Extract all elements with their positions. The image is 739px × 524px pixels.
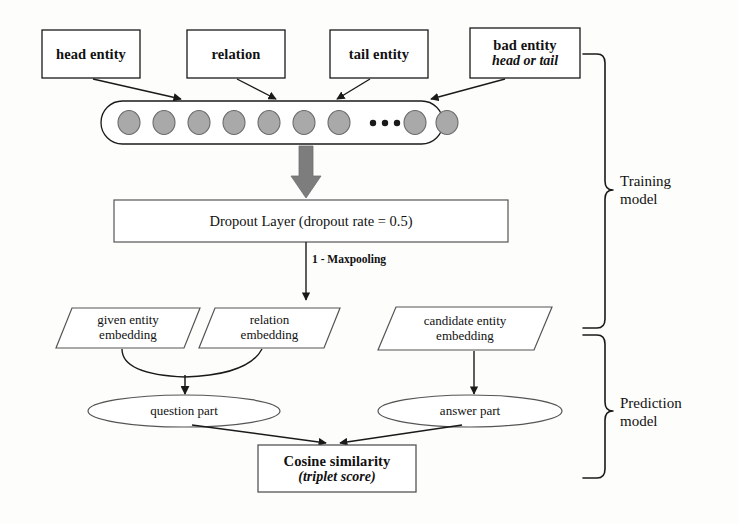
brace-training-model	[583, 54, 613, 328]
ellipse-answer-part[interactable]	[378, 395, 562, 427]
box-cosine-similarity[interactable]	[258, 445, 416, 492]
ellipse-question-part[interactable]	[88, 395, 280, 427]
diagram-vector-layer	[0, 0, 739, 524]
box-dropout-layer[interactable]	[114, 200, 508, 242]
gray-down-arrow	[291, 146, 321, 198]
shape-candidate-entity-embedding[interactable]	[378, 307, 552, 350]
arrow-bad-entity-to-vector	[431, 79, 505, 99]
box-tail-entity[interactable]	[330, 30, 428, 78]
box-head-entity[interactable]	[42, 30, 140, 78]
box-bad-entity[interactable]	[470, 28, 580, 78]
arrow-head-entity-to-vector	[93, 79, 181, 99]
box-relation[interactable]	[187, 30, 285, 78]
diagram-canvas: head entity relation tail entity bad ent…	[0, 0, 739, 524]
embedding-vector-ellipsis	[370, 120, 400, 126]
curve-embeddings-join	[122, 349, 262, 377]
shape-relation-embedding[interactable]	[199, 308, 340, 348]
arrow-tail-entity-to-vector	[337, 79, 370, 99]
arrow-answer-to-cosine	[340, 425, 462, 443]
arrow-relation-to-vector	[237, 79, 276, 99]
shape-given-entity-embedding[interactable]	[56, 308, 200, 348]
arrow-question-to-cosine	[192, 425, 326, 443]
brace-prediction-model	[583, 335, 613, 478]
